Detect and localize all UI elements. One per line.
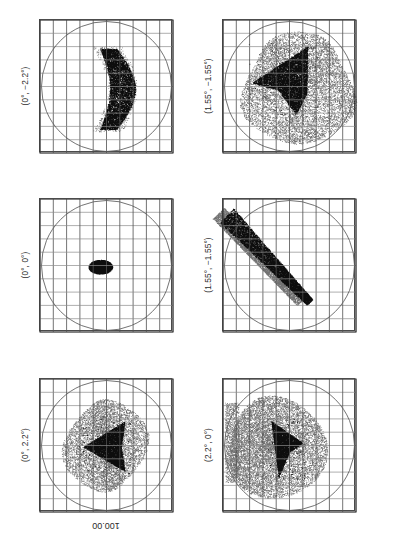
spot-core xyxy=(221,209,313,306)
scale-label: 100.00 xyxy=(81,521,131,531)
spot-points xyxy=(89,260,114,275)
spot-panel-panel-0-2p2-neg xyxy=(39,19,172,152)
panel-field-label: (0°, −2.2°) xyxy=(20,66,30,105)
spot-panel-panel-2p2-0 xyxy=(222,378,355,511)
spot-panel-panel-1p55-neg1p55-top xyxy=(222,19,355,152)
spot-points xyxy=(225,395,328,498)
panel-plot-panel-0-2p2 xyxy=(20,359,193,532)
plot-grid xyxy=(40,199,173,332)
spot-panel-panel-0-2p2 xyxy=(39,378,172,511)
spot-diagram-figure: (0°, −2.2°)(1.55°, −1.55°)(0°, 0°)(1.55°… xyxy=(0,0,394,558)
panel-plot-panel-1p55-neg1p55-mid xyxy=(203,179,376,352)
plot-grid xyxy=(40,379,173,512)
spot-points xyxy=(93,46,137,132)
panel-field-label: (1.55°, −1.55°) xyxy=(203,58,213,113)
spot-core xyxy=(100,49,136,131)
panel-plot-panel-0-0 xyxy=(20,179,193,352)
plot-grid xyxy=(223,20,356,153)
panel-field-label: (0°, 0°) xyxy=(20,251,30,278)
plot-grid xyxy=(223,379,356,512)
panel-plot-panel-0-2p2-neg xyxy=(20,0,193,173)
panel-field-label: (0°, 2.2°) xyxy=(20,428,30,462)
panel-field-label: (1.55°, −1.55°) xyxy=(203,237,213,292)
spot-points xyxy=(62,399,150,492)
panel-plot-panel-2p2-0 xyxy=(203,359,376,532)
plot-grid xyxy=(40,20,173,153)
spot-panel-panel-0-0 xyxy=(39,198,172,331)
spot-panel-panel-1p55-neg1p55-mid xyxy=(222,198,355,331)
panel-field-label: (2.2°, 0°) xyxy=(203,428,213,462)
spot-core xyxy=(89,260,114,275)
panel-plot-panel-1p55-neg1p55-top xyxy=(203,0,376,173)
